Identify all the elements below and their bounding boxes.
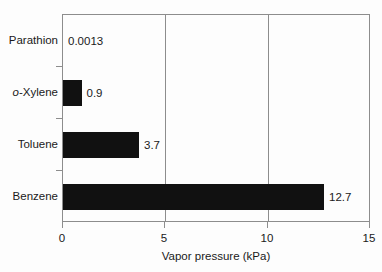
category-label-parathion: Parathion [0, 33, 58, 47]
bar-row-benzene: 12.7 [63, 171, 369, 223]
x-axis-label-0: 0 [59, 231, 65, 245]
bar-benzene [63, 184, 324, 210]
x-axis-tick-10 [267, 222, 268, 228]
x-axis-label-5: 5 [161, 231, 167, 245]
bar-toluene [63, 132, 139, 158]
bar-row-parathion: 0.0013 [63, 15, 369, 67]
x-axis-label-10: 10 [261, 231, 274, 245]
category-label-o-xylene: o-Xylene [0, 85, 58, 99]
category-label-benzene-text: Benzene [13, 190, 58, 202]
category-label-toluene-text: Toluene [18, 138, 58, 150]
bar-value-benzene: 12.7 [324, 184, 351, 210]
bar-o-xylene [63, 80, 82, 106]
category-axis-labels: Parathion o-Xylene Toluene Benzene [0, 14, 58, 222]
vapor-pressure-bar-chart: Parathion o-Xylene Toluene Benzene 0.001… [0, 0, 382, 272]
category-label-benzene: Benzene [0, 189, 58, 203]
x-axis-title: Vapor pressure (kPa) [62, 249, 370, 263]
x-axis-label-15: 15 [363, 231, 376, 245]
bar-row-o-xylene: 0.9 [63, 67, 369, 119]
bar-value-o-xylene: 0.9 [82, 80, 103, 106]
x-axis-tick-5 [164, 222, 165, 228]
category-label-o-xylene-rest: -Xylene [19, 86, 58, 98]
bar-row-toluene: 3.7 [63, 119, 369, 171]
plot-area: 0.0013 0.9 3.7 12.7 [62, 14, 370, 222]
category-label-parathion-text: Parathion [9, 34, 58, 46]
bar-value-toluene: 3.7 [139, 132, 160, 158]
category-label-toluene: Toluene [0, 137, 58, 151]
x-axis-tick-0 [62, 222, 63, 228]
x-axis-tick-15 [369, 222, 370, 228]
bar-value-parathion: 0.0013 [63, 28, 103, 54]
